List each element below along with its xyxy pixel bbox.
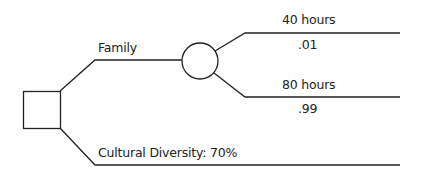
outcome-80-hours-probability: .99	[298, 101, 317, 116]
decision-node-square	[24, 92, 61, 129]
outcome-40-hours-label: 40 hours	[282, 12, 335, 27]
outcome-80-hours-label: 80 hours	[282, 77, 335, 92]
chance-node-circle	[182, 43, 218, 79]
cultural-diversity-label: Cultural Diversity: 70%	[98, 145, 237, 160]
outcome-40-hours-probability: .01	[298, 37, 317, 52]
family-branch-line	[60, 60, 182, 91]
decision-tree-diagram: Family 40 hours .01 80 hours .99 Cultura…	[0, 0, 421, 176]
family-label: Family	[98, 40, 137, 55]
